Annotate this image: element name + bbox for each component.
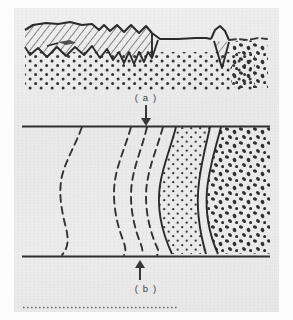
panel-b-dashed-curve-3 [131,127,147,255]
panel-a-right-notch [211,26,229,40]
cross-section-figure [0,0,293,320]
panel-b-label: ( b ) [111,283,181,294]
arrow-b-head [135,260,145,268]
panel-a-cap-dashed [229,38,267,40]
panel-a-label: ( a ) [111,92,181,103]
figure-root: ( a ) ( b ) [0,0,293,320]
panel-a-group [20,18,275,92]
panel-a-coarse-zone [225,38,275,92]
arrow-b-group [135,260,145,280]
panel-a-flat-cap [152,33,211,39]
arrow-a-head [141,118,151,126]
panel-b-dashed-curve-1 [60,127,82,255]
arrow-a-group [141,105,151,126]
panel-b-dashed-curve-2 [114,127,131,255]
panel-b-group [22,126,275,257]
